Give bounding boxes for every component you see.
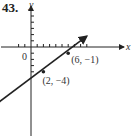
y-axis-label: y <box>28 0 34 10</box>
point-label-2: (6, −1) <box>71 54 98 66</box>
data-point-2 <box>66 51 70 55</box>
plot: x y 0 (2, −4) (6, −1) <box>0 0 134 136</box>
data-point-1 <box>42 70 46 74</box>
point-label-1: (2, −4) <box>42 75 69 87</box>
x-axis-label: x <box>125 41 131 52</box>
origin-label: 0 <box>22 51 27 62</box>
